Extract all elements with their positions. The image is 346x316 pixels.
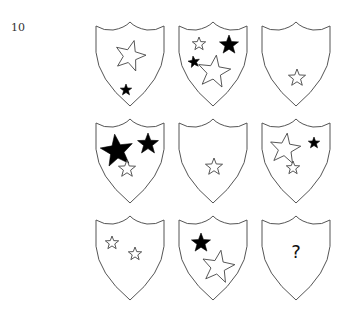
shield-puzzle-grid: ? xyxy=(0,0,346,316)
shield-icon xyxy=(96,119,164,203)
shield-r2-c1 xyxy=(96,119,164,203)
shield-r2-c3 xyxy=(262,119,330,203)
shield-icon xyxy=(262,119,330,203)
shield-icon xyxy=(262,22,330,106)
shield-r3-c2 xyxy=(179,216,247,300)
shield-r1-c1 xyxy=(96,22,164,106)
missing-answer-question-mark: ? xyxy=(291,241,301,262)
shield-r3-c3: ? xyxy=(262,216,330,300)
shield-r1-c3 xyxy=(262,22,330,106)
shield-r2-c2 xyxy=(179,119,247,203)
shield-icon xyxy=(179,216,247,300)
shield-icon xyxy=(96,216,164,300)
shield-r1-c2 xyxy=(179,22,247,106)
shield-r3-c1 xyxy=(96,216,164,300)
